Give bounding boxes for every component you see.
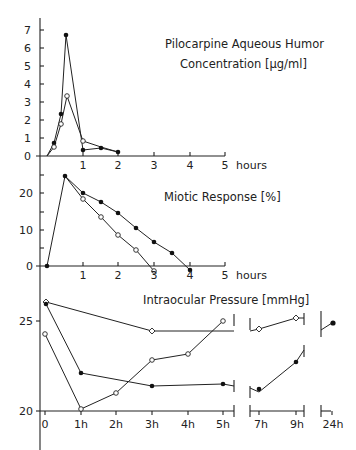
x-tick: 9h xyxy=(290,418,304,431)
y-tick: 20 xyxy=(19,405,33,418)
top-panel-title-line2: Concentration [µg/ml] xyxy=(180,57,307,71)
x-tick: 5h xyxy=(216,418,230,431)
middle-panel-title: Miotic Response [%] xyxy=(164,190,281,204)
x-tick: 2 xyxy=(115,159,122,172)
top-panel-title-line1: Pilocarpine Aqueous Humor xyxy=(165,37,324,51)
x-tick: 7h xyxy=(254,418,268,431)
x-tick: 4h xyxy=(181,418,195,431)
bottom-series-filled xyxy=(46,304,332,392)
x-tick: 2 xyxy=(115,269,122,282)
x-tick: 1 xyxy=(80,159,87,172)
x-tick: 1 xyxy=(80,269,87,282)
y-tick: 3 xyxy=(24,96,31,109)
figure: 7 6 5 4 3 2 1 0 1 2 3 4 5 hours Pilocarp… xyxy=(0,0,356,450)
y-tick: 1 xyxy=(24,132,31,145)
x-tick: 2h xyxy=(109,418,123,431)
y-tick: 25 xyxy=(19,315,33,328)
x-tick: 3h xyxy=(145,418,159,431)
y-tick: 20 xyxy=(19,187,33,200)
middle-series-open xyxy=(65,176,154,271)
x-tick: 1h xyxy=(74,418,88,431)
x-axis-unit: hours xyxy=(236,269,267,282)
x-tick: 3 xyxy=(151,269,158,282)
x-tick: 5 xyxy=(222,159,229,172)
x-tick: 0 xyxy=(42,418,49,431)
x-tick: 4 xyxy=(187,269,194,282)
y-tick: 6 xyxy=(24,42,31,55)
y-tick: 0 xyxy=(26,260,33,273)
y-tick: 2 xyxy=(24,114,31,127)
y-tick: 10 xyxy=(19,224,33,237)
x-axis-unit: hours xyxy=(236,159,267,172)
x-tick: 5 xyxy=(222,269,229,282)
y-tick: 7 xyxy=(24,24,31,37)
y-tick: 4 xyxy=(24,78,31,91)
bottom-series-open xyxy=(45,321,223,409)
x-tick: 4 xyxy=(187,159,194,172)
x-tick: 24h xyxy=(323,418,344,431)
y-tick: 0 xyxy=(24,150,31,163)
x-tick: 3 xyxy=(151,159,158,172)
top-series-filled xyxy=(47,35,118,156)
y-tick: 5 xyxy=(24,60,31,73)
bottom-panel-title: Intraocular Pressure [mmHg] xyxy=(143,293,309,307)
